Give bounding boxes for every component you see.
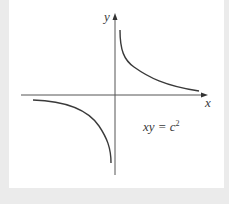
- equation-label: xy = c2: [142, 119, 180, 134]
- y-axis-arrowhead-icon: [113, 13, 118, 20]
- equation-main: xy = c: [142, 119, 176, 134]
- hyperbola-plot: y x xy = c2: [0, 0, 229, 204]
- hyperbola-branch-first-quadrant: [120, 30, 199, 91]
- y-axis-label: y: [102, 9, 110, 24]
- hyperbola-branch-third-quadrant: [33, 100, 111, 163]
- equation-superscript: 2: [176, 119, 180, 128]
- x-axis-label: x: [204, 95, 211, 110]
